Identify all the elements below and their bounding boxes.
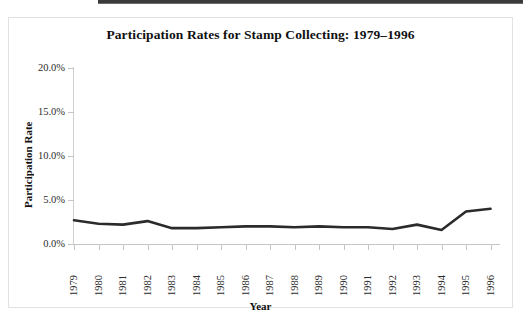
top-horizontal-rule-shadow — [98, 3, 523, 4]
series-line-stamp-collecting — [74, 209, 491, 230]
series-line-chart — [9, 18, 514, 309]
chart-figure: Participation Rates for Stamp Collecting… — [8, 17, 513, 308]
